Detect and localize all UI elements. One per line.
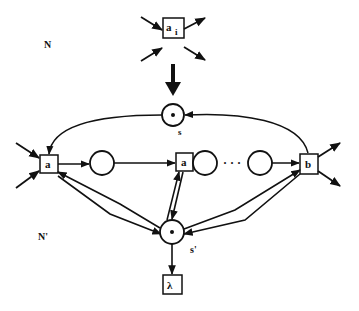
top-transition-label: a (166, 21, 172, 33)
place-chain-3 (248, 151, 272, 175)
arc-s-to-a-left (49, 115, 162, 154)
transition-b-label: b (305, 158, 311, 170)
transition-a-left-label: a (45, 158, 51, 170)
petri-net-diagram: N a i s a (0, 0, 359, 311)
transition-lambda: λ (163, 275, 182, 294)
token-icon (171, 113, 175, 117)
transition-a-left: a (40, 155, 58, 173)
transition-b-right: b (300, 154, 318, 174)
place-chain-1 (90, 151, 114, 175)
top-transition-ai: a i (163, 18, 184, 38)
transition-a-middle-label: a (181, 156, 187, 168)
transition-a-middle: a (176, 153, 193, 171)
place-s-prime-label: s' (190, 244, 197, 255)
token-icon (170, 230, 174, 234)
net-label-n-prime: N' (38, 231, 48, 242)
net-label-n: N (44, 39, 52, 50)
right-transition-output-arcs (318, 143, 340, 186)
arc-b-to-s (185, 114, 308, 153)
refinement-arrow-icon (165, 64, 181, 96)
transition-lambda-label: λ (167, 279, 173, 291)
chain-ellipsis: · · · (223, 156, 241, 170)
place-s-label: s (178, 127, 182, 137)
place-s (162, 104, 184, 126)
place-chain-2 (193, 151, 217, 175)
place-s-prime (160, 220, 184, 244)
left-transition-input-arcs (16, 143, 39, 188)
